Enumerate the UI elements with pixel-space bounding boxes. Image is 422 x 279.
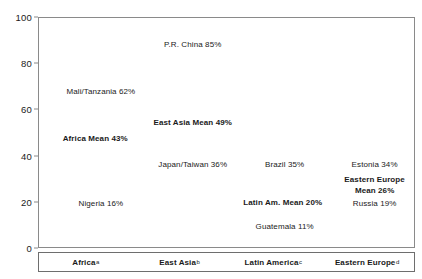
- y-axis-tick-label: 40: [21, 150, 32, 161]
- category-label-text: East Asia: [159, 258, 196, 267]
- data-point-label: Nigeria 16%: [79, 199, 124, 209]
- data-point-label: Eastern Europe Mean 26%: [334, 175, 416, 195]
- data-point-label: Guatemala 11%: [256, 222, 314, 232]
- data-point-label: Brazil 35%: [265, 160, 304, 170]
- data-point-label: Latin Am. Mean 20%: [243, 198, 322, 208]
- y-axis: 020406080100: [0, 17, 38, 248]
- data-point-label: Mali/Tanzania 62%: [66, 87, 135, 97]
- category-label-text: Eastern Europe: [335, 258, 396, 267]
- category-label-text: Latin America: [245, 258, 299, 267]
- category-label-eastern-europe: Eastern Europed: [320, 253, 414, 271]
- data-point-label: Japan/Taiwan 36%: [158, 160, 227, 170]
- data-point-label: East Asia Mean 49%: [154, 118, 232, 128]
- y-axis-tick-label: 0: [27, 243, 32, 254]
- category-label-east-asia: East Asiab: [133, 253, 227, 271]
- category-label-text: Africa: [72, 258, 95, 267]
- y-axis-tick-label: 80: [21, 58, 32, 69]
- data-point-label: P.R. China 85%: [164, 39, 221, 49]
- y-axis-tick-label: 60: [21, 104, 32, 115]
- y-axis-tick-label: 100: [16, 12, 32, 23]
- data-point-label: Africa Mean 43%: [63, 134, 128, 144]
- category-label-africa: Africaa: [39, 253, 133, 271]
- plot-area: Mali/Tanzania 62%Africa Mean 43%Nigeria …: [38, 17, 415, 248]
- category-label-latin-america: Latin Americac: [227, 253, 321, 271]
- y-axis-tick-label: 20: [21, 196, 32, 207]
- data-point-label: Russia 19%: [353, 199, 397, 209]
- data-point-label: Estonia 34%: [352, 160, 398, 170]
- category-axis-band: AfricaaEast AsiabLatin AmericacEastern E…: [38, 252, 415, 272]
- chart-container: 020406080100 Mali/Tanzania 62%Africa Mea…: [0, 0, 422, 279]
